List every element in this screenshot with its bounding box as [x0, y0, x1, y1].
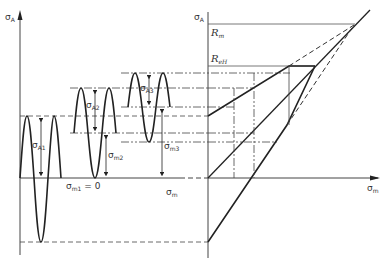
right-axis-label: σA: [194, 12, 205, 23]
left-axis: [18, 10, 23, 255]
sigma-m-label: σm: [166, 187, 178, 198]
arrow-right-icon: [370, 176, 380, 181]
upper-limit-line: [208, 66, 315, 116]
fatigue-diagram: σA σA1 σA2 σA3 σm1 = 0 σm2 σm3 σm σA Rm …: [0, 0, 388, 269]
sigma-m1-label: σm1 = 0: [66, 181, 101, 192]
reh-label: ReH: [210, 53, 228, 65]
wave-1: [20, 116, 61, 242]
left-axis-label: σA: [5, 12, 16, 23]
lower-limit-line: [208, 66, 315, 242]
arrow-up-icon: [18, 10, 23, 20]
x-axis-label: σm: [367, 183, 379, 194]
sigma-a3-label: σA3: [140, 83, 154, 94]
reference-lines: [20, 73, 290, 242]
sigma-m2-label: σm2: [108, 150, 124, 161]
sigma-a1-label: σA1: [32, 140, 46, 151]
sigma-m3-label: σm3: [164, 141, 180, 152]
diagram-canvas: σA σA1 σA2 σA3 σm1 = 0 σm2 σm3 σm σA Rm …: [0, 0, 388, 269]
rm-label: Rm: [210, 27, 225, 39]
sigma-a2-label: σA2: [86, 100, 100, 111]
